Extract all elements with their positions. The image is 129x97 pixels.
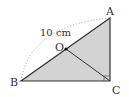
label-o: O [55, 41, 64, 54]
point-o-dot [64, 47, 67, 50]
length-label: 10 cm [40, 27, 72, 38]
geometry-diagram: A B C O 10 cm [0, 0, 129, 97]
label-b: B [10, 76, 18, 89]
label-a: A [105, 5, 115, 18]
label-c: C [112, 84, 120, 97]
